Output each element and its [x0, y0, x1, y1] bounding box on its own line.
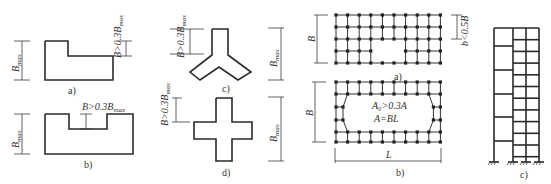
panel-d-cross: B>0.3Bmax d): [159, 82, 252, 179]
grid-panel-b: [334, 80, 442, 143]
svg-text:L: L: [385, 149, 392, 160]
svg-text:b<0.5B: b<0.5B: [459, 16, 470, 46]
panel-a-l-shape: Bmax B>0.3Bmax a): [10, 14, 132, 97]
caption-b: b): [84, 159, 92, 171]
caption-a: a): [68, 85, 76, 97]
structural-irregularity-figure: Bmax B>0.3Bmax a) Bmax B>0.3Bmax b) B>0.…: [0, 0, 551, 184]
svg-text:B: B: [306, 36, 317, 42]
grid-a-dims: B b<0.5B a): [306, 15, 470, 83]
svg-text:B: B: [304, 110, 315, 116]
caption-d: d): [222, 167, 230, 179]
svg-text:A=BL: A=BL: [373, 113, 399, 124]
panel-c-y-shape: B>0.3Bmax c): [170, 14, 251, 95]
svg-text:Bmax: Bmax: [10, 53, 23, 72]
svg-text:A₀>0.3A: A₀>0.3A: [371, 100, 408, 111]
svg-text:Bmax: Bmax: [10, 129, 23, 148]
caption-grid-b: b): [396, 167, 404, 179]
caption-c: c): [222, 83, 230, 95]
caption-frame-c: c): [520, 169, 528, 181]
svg-text:B>0.3Bmax: B>0.3Bmax: [112, 14, 125, 58]
bmax-dimension: Bmax Bmax: [268, 28, 284, 161]
svg-text:B>0.3Bmax: B>0.3Bmax: [159, 82, 172, 126]
svg-text:B>0.3Bmax: B>0.3Bmax: [175, 14, 188, 58]
grid-b-dims: B L A₀>0.3A A=BL b): [304, 82, 441, 179]
svg-text:Bmax: Bmax: [268, 48, 281, 67]
panel-b-u-shape: Bmax B>0.3Bmax b): [10, 101, 133, 171]
svg-text:B>0.3Bmax: B>0.3Bmax: [82, 101, 126, 114]
svg-text:Bmax: Bmax: [268, 123, 281, 142]
frame-elevation: [488, 28, 544, 165]
grid-panel-a: [334, 13, 442, 64]
